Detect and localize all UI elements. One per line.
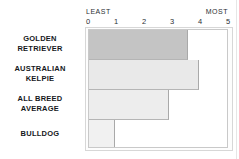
- axis-most-label: MOST: [206, 8, 228, 15]
- category-label-line: KELPIE: [0, 74, 80, 84]
- axis-tick-label-4: 4: [193, 17, 207, 26]
- bar-golden-retriever: [89, 30, 188, 60]
- category-label-line: BULLDOG: [0, 129, 80, 139]
- horizontal-bar-chart: GOLDEN RETRIEVER AUSTRALIAN KELPIE ALL B…: [0, 0, 239, 159]
- plot-area: [88, 29, 228, 148]
- category-label-bulldog: BULLDOG: [0, 129, 80, 139]
- category-label-golden-retriever: GOLDEN RETRIEVER: [0, 34, 80, 53]
- category-axis-labels: GOLDEN RETRIEVER AUSTRALIAN KELPIE ALL B…: [0, 28, 82, 148]
- axis-tick-label-2: 2: [137, 17, 151, 26]
- category-label-line: AUSTRALIAN: [0, 64, 80, 74]
- bar-australian-kelpie: [89, 60, 199, 90]
- axis-tick-label-1: 1: [109, 17, 123, 26]
- axis-least-label: LEAST: [86, 8, 111, 15]
- bar-row: [89, 120, 227, 148]
- category-label-line: ALL BREED: [0, 94, 80, 104]
- bar-row: [89, 60, 227, 90]
- axis-tick-label-5: 5: [221, 17, 235, 26]
- bar-row: [89, 90, 227, 120]
- category-label-line: GOLDEN: [0, 34, 80, 44]
- category-label-australian-kelpie: AUSTRALIAN KELPIE: [0, 64, 80, 83]
- bar-bulldog: [89, 120, 115, 148]
- category-label-all-breed-average: ALL BREED AVERAGE: [0, 94, 80, 113]
- bar-all-breed-average: [89, 90, 169, 120]
- page-edge-rule: [236, 0, 237, 159]
- bar-row: [89, 30, 227, 60]
- axis-tick-label-3: 3: [165, 17, 179, 26]
- category-label-line: RETRIEVER: [0, 44, 80, 54]
- value-axis: LEAST MOST 0 1 2 3 4 5: [85, 0, 233, 28]
- category-label-line: AVERAGE: [0, 104, 80, 114]
- axis-tick-label-0: 0: [81, 17, 95, 26]
